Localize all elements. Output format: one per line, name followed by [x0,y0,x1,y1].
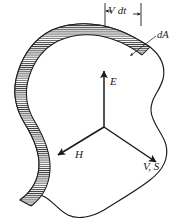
label-h-field: H [75,149,83,160]
label-v-dt: V dt [108,5,127,16]
label-e-field: E [110,76,117,87]
figure-drawing-canvas [0,0,183,223]
label-da: dA [157,30,169,41]
label-v-s: V, S [143,161,159,172]
figure-electromagnetic-surface: V dt dA E H V, S [0,0,183,223]
